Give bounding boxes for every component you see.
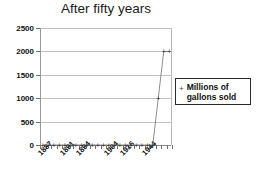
chart-container: After fifty years 05001000150020002500 1… xyxy=(0,0,260,180)
series-line-millions-of-gallons-sold xyxy=(40,28,172,145)
legend-label: Millions of gallons sold xyxy=(187,82,247,102)
legend[interactable]: + Millions of gallons sold xyxy=(175,78,251,105)
legend-plus-marker: + xyxy=(179,84,184,93)
series-path xyxy=(43,51,170,145)
